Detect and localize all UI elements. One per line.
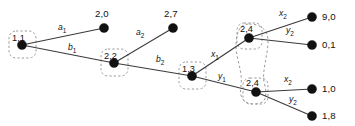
- edge-label-x1: x1: [211, 50, 219, 59]
- node-dot-2-0: [99, 23, 108, 32]
- leaf-label-1-8: 1,8: [322, 111, 336, 121]
- leaf-label-1-0: 1,0: [322, 84, 336, 94]
- edge-label-x2-upper: x2: [279, 9, 287, 18]
- edge-x2-lower: [256, 89, 312, 92]
- edge-y2-lower: [256, 92, 312, 116]
- node-dot-2-7: [168, 23, 177, 32]
- node-label-2-2: 2,2: [104, 52, 117, 61]
- node-label-1-3: 1,3: [182, 65, 195, 74]
- edge-label-a1: a1: [58, 23, 66, 32]
- node-dot-1-8: [307, 111, 316, 120]
- node-label-2-4-lower: 2,4: [246, 79, 259, 88]
- node-label-2-4-upper: 2,4: [240, 25, 253, 34]
- node-label-2-7: 2,7: [164, 9, 178, 19]
- node-dot-2-4-upper: [244, 33, 253, 42]
- edge-label-b1: b1: [68, 43, 76, 52]
- edge-label-y2-upper: y2: [286, 26, 294, 35]
- node-dot-1-0: [307, 84, 316, 93]
- edge-label-b2: b2: [156, 55, 164, 64]
- node-dot-0-1: [307, 40, 316, 49]
- node-label-2-0: 2,0: [95, 9, 109, 19]
- edge-label-x2-lower: x2: [284, 75, 292, 84]
- leaf-label-0-1: 0,1: [322, 40, 336, 50]
- tree-diagram: 1,1 2,0 2,2 2,7 1,3 2,4 2,4 9,0 0,1 1,0 …: [0, 0, 355, 126]
- edge-label-y2-lower: y2: [289, 95, 297, 104]
- node-label-1-1: 1,1: [12, 34, 25, 43]
- node-dot-9-0: [307, 12, 316, 21]
- node-dot-2-4-lower: [251, 87, 260, 96]
- edge-y2-upper: [249, 38, 312, 45]
- edge-x2-upper: [249, 17, 312, 38]
- edge-label-a2: a2: [136, 28, 144, 37]
- leaf-label-9-0: 9,0: [322, 12, 336, 22]
- edge-label-y1: y1: [218, 72, 226, 81]
